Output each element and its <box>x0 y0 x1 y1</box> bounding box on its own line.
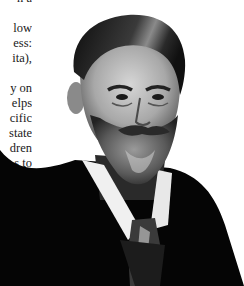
portrait-photo <box>0 0 244 286</box>
